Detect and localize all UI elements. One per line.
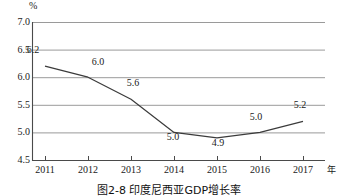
x-axis-tick-label: 2012 — [68, 165, 108, 175]
x-axis-tick-label: 2011 — [25, 165, 65, 175]
data-point-label: 4.9 — [203, 138, 233, 148]
figure-caption: 图2-8 印度尼西亚GDP增长率 — [0, 184, 338, 196]
x-axis-tick-label: 2016 — [240, 165, 280, 175]
data-point-label: 5.0 — [158, 132, 188, 142]
y-axis-tick-label: 5.5 — [2, 100, 30, 110]
x-axis-unit-label: 年 — [327, 166, 336, 175]
y-axis-tick-label: 5.0 — [2, 127, 30, 137]
data-point-label: 5.0 — [241, 112, 271, 122]
x-axis-tick-label: 2015 — [197, 165, 237, 175]
y-axis-unit-label: % — [29, 1, 37, 11]
x-axis-tick-label: 2014 — [154, 165, 194, 175]
data-point-label: 6.2 — [18, 45, 48, 55]
data-point-label: 5.6 — [118, 78, 148, 88]
x-axis-tick-label: 2017 — [283, 165, 323, 175]
y-axis-tick-label: 6.0 — [2, 72, 30, 82]
x-axis-tick-label: 2013 — [111, 165, 151, 175]
data-point-label: 6.0 — [83, 57, 113, 67]
y-axis-tick-label: 7.0 — [2, 17, 30, 27]
y-axis-tick-label: 4.5 — [2, 155, 30, 165]
figure-container: % 7.06.56.05.55.04.5 2011201220132014201… — [0, 0, 338, 196]
data-point-label: 5.2 — [285, 100, 315, 110]
